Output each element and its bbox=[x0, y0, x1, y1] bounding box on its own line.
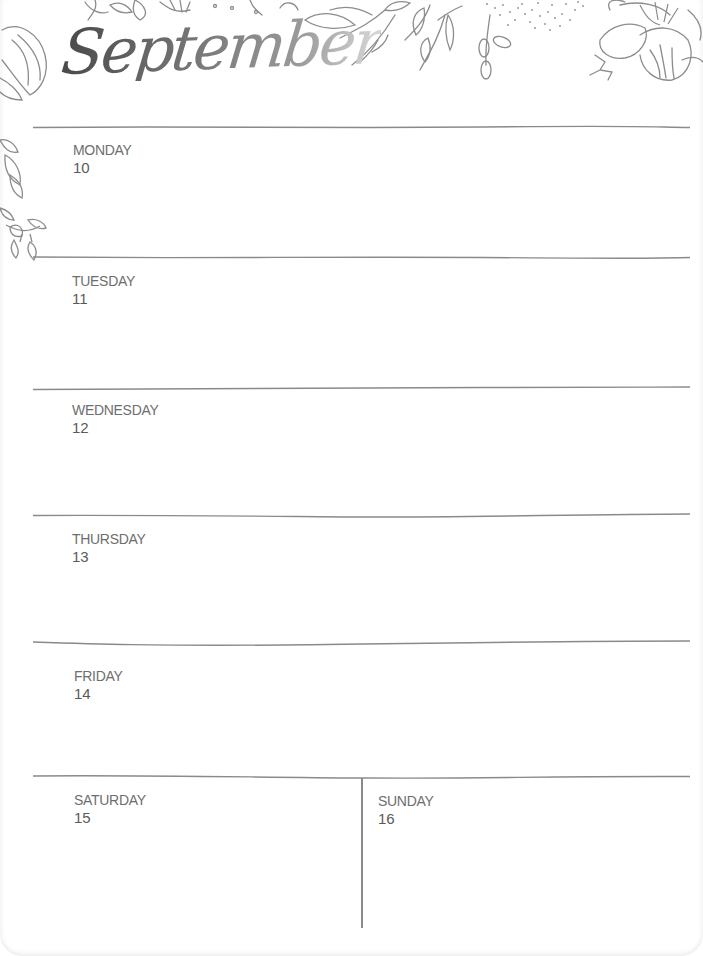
weekend-divider-line bbox=[361, 778, 363, 928]
month-title: September bbox=[59, 11, 384, 84]
divider-line bbox=[33, 639, 690, 642]
wednesday-writing-area[interactable] bbox=[33, 390, 690, 512]
saturday-writing-area[interactable] bbox=[33, 780, 359, 928]
monday-writing-area[interactable] bbox=[33, 130, 690, 255]
divider-line bbox=[33, 513, 690, 516]
sunday-writing-area[interactable] bbox=[364, 780, 690, 928]
thursday-writing-area[interactable] bbox=[33, 518, 690, 638]
divider-line bbox=[33, 386, 690, 389]
friday-writing-area[interactable] bbox=[33, 646, 690, 772]
divider-line bbox=[33, 125, 690, 128]
tuesday-writing-area[interactable] bbox=[33, 260, 690, 385]
weekly-planner-page: September MONDAY 10 TUESDAY 11 WEDNESDAY… bbox=[0, 0, 703, 956]
divider-line bbox=[33, 255, 690, 258]
divider-line bbox=[33, 774, 690, 777]
